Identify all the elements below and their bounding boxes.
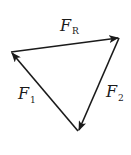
label-f1: F 1 [17,84,36,105]
label-fr: F R [59,16,79,36]
label-fr-subscript: R [72,26,79,36]
force-triangle-diagram: F R F 1 F 2 [0,0,131,155]
label-f2-main: F [105,82,118,101]
label-f1-subscript: 1 [30,95,36,105]
label-fr-main: F [59,16,72,35]
label-f1-main: F [17,84,30,103]
label-f2: F 2 [105,82,124,103]
vector-fr-arrow [11,38,118,52]
label-f2-subscript: 2 [118,93,124,103]
